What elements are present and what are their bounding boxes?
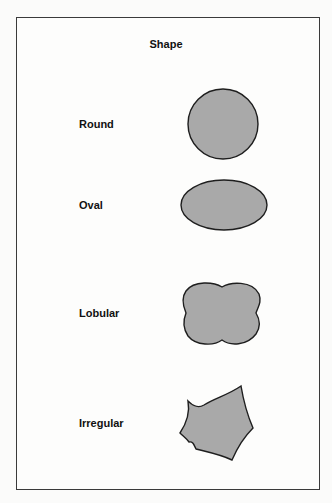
oval-shape <box>181 180 267 230</box>
shapes-canvas <box>0 0 332 503</box>
irregular-shape <box>180 386 253 460</box>
round-shape <box>188 89 258 159</box>
lobular-shape <box>183 283 260 344</box>
